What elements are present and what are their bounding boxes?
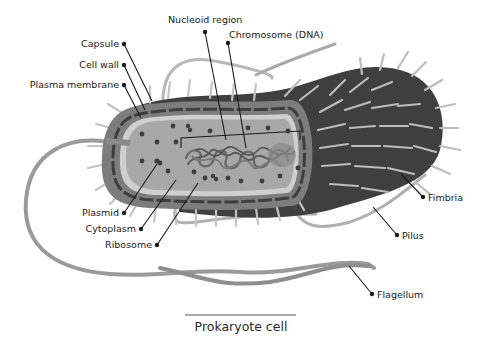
pilus-top-right	[256, 44, 335, 75]
label-plasma-membrane: Plasma membrane	[30, 79, 119, 90]
flagellum	[160, 265, 370, 283]
label-ribosome: Ribosome	[105, 239, 152, 250]
diagram-title: Prokaryote cell	[195, 319, 288, 334]
label-cytoplasm: Cytoplasm	[86, 223, 137, 234]
label-pilus: Pilus	[402, 230, 424, 241]
prokaryote-cell-diagram: Nucleoid region Chromosome (DNA) Capsule…	[0, 0, 484, 349]
label-capsule: Capsule	[81, 38, 119, 49]
label-nucleoid-region: Nucleoid region	[168, 14, 242, 25]
label-plasmid: Plasmid	[82, 207, 119, 218]
label-flagellum: Flagellum	[377, 289, 423, 300]
label-cell-wall: Cell wall	[79, 59, 119, 70]
label-fimbria: Fimbria	[428, 192, 463, 203]
label-chromosome: Chromosome (DNA)	[229, 29, 323, 40]
cell-cross-section	[102, 100, 313, 210]
